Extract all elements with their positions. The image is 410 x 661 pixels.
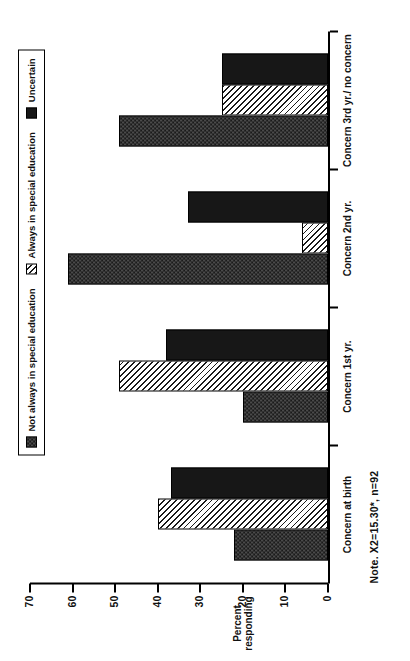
bar-always-in-special-education <box>158 499 328 530</box>
figure-note: Note. X2=15.30*, n=92 <box>368 470 380 583</box>
bar-uncertain <box>222 54 328 85</box>
bar-not-always-in-special-education <box>243 392 328 423</box>
category-label: Concern 1st yr. <box>342 307 353 445</box>
category-axis-tick <box>330 168 338 170</box>
value-axis-tick-label: 40 <box>152 595 162 621</box>
value-axis-tick <box>199 583 201 592</box>
category-label: Concern 2nd yr. <box>342 169 353 307</box>
value-axis-tick-label: 60 <box>67 595 77 621</box>
value-axis-tick-label: 20 <box>237 595 247 621</box>
value-axis-tick-label: 0 <box>322 595 332 621</box>
value-axis-tick-label: 70 <box>24 595 34 621</box>
bar-uncertain <box>171 468 329 499</box>
value-axis-tick <box>284 583 286 592</box>
value-axis-tick-label: 30 <box>194 595 204 621</box>
bar-uncertain <box>166 330 328 361</box>
bar-not-always-in-special-education <box>119 116 328 147</box>
bar-not-always-in-special-education <box>234 530 328 561</box>
value-axis-tick <box>157 583 159 592</box>
value-axis-tick <box>114 583 116 592</box>
category-axis-end-tick <box>330 30 338 32</box>
value-axis-tick-label: 50 <box>109 595 119 621</box>
bar-always-in-special-education <box>302 223 328 254</box>
category-axis-tick <box>330 444 338 446</box>
value-axis-tick-label: 10 <box>279 595 289 621</box>
value-axis-tick <box>72 583 74 592</box>
bar-always-in-special-education <box>222 85 328 116</box>
category-label: Concern at birth <box>342 445 353 583</box>
value-axis-tick <box>327 583 329 592</box>
bar-not-always-in-special-education <box>68 254 328 285</box>
figure-canvas: Not always in special education Always i… <box>0 0 410 661</box>
bar-always-in-special-education <box>119 361 328 392</box>
category-axis-tick <box>330 306 338 308</box>
bar-uncertain <box>188 192 328 223</box>
plot-area: 010203040506070 Concern at birthConcern … <box>30 31 328 583</box>
value-axis-line <box>30 582 328 584</box>
category-label: Concern 3rd yr./ no concern <box>342 31 353 169</box>
value-axis-tick <box>242 583 244 592</box>
value-axis-tick <box>29 583 31 592</box>
